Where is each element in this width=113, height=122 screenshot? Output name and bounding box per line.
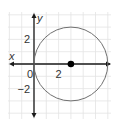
y-axis-top-arrow [32,13,37,18]
grid [8,12,111,119]
y-axis-bottom-arrow [32,113,37,118]
coordinate-plane: 022−2 x y [0,0,113,122]
x-axis-label: x [8,50,15,62]
x-axis-right-arrow [106,62,111,67]
x-tick-label: 2 [56,68,62,80]
center-point [68,61,75,68]
y-tick-label: −2 [17,83,30,95]
x-tick-label: 0 [27,68,33,80]
y-axis-label: y [36,12,44,24]
y-tick-label: 2 [24,33,30,45]
